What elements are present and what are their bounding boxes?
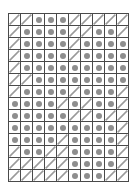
dot-cell[interactable] (69, 74, 81, 86)
dot-cell[interactable] (81, 158, 93, 169)
dot-cell[interactable] (33, 86, 45, 98)
dot-cell[interactable] (33, 14, 45, 26)
slash-cell[interactable] (69, 86, 81, 98)
dot-cell[interactable] (21, 146, 33, 158)
dot-cell[interactable] (57, 38, 69, 50)
slash-cell[interactable] (81, 110, 93, 122)
dot-cell[interactable] (33, 110, 45, 122)
dot-cell[interactable] (105, 134, 117, 146)
slash-cell[interactable] (9, 26, 21, 38)
dot-cell[interactable] (105, 26, 117, 38)
slash-cell[interactable] (117, 146, 125, 158)
dot-cell[interactable] (57, 110, 69, 122)
slash-cell[interactable] (21, 14, 33, 26)
dot-cell[interactable] (105, 158, 117, 169)
dot-cell[interactable] (81, 122, 93, 134)
dot-cell[interactable] (57, 122, 69, 134)
dot-cell[interactable] (93, 74, 105, 86)
dot-cell[interactable] (69, 122, 81, 134)
dot-cell[interactable] (21, 26, 33, 38)
dot-cell[interactable] (21, 134, 33, 146)
dot-cell[interactable] (33, 146, 45, 158)
dot-cell[interactable] (33, 62, 45, 74)
slash-cell[interactable] (9, 38, 21, 50)
dot-cell[interactable] (33, 98, 45, 110)
slash-cell[interactable] (117, 110, 125, 122)
dot-cell[interactable] (33, 26, 45, 38)
slash-cell[interactable] (9, 158, 21, 169)
slash-cell[interactable] (69, 50, 81, 62)
dot-cell[interactable] (45, 26, 57, 38)
slash-cell[interactable] (9, 62, 21, 74)
dot-cell[interactable] (69, 146, 81, 158)
dot-cell[interactable] (81, 134, 93, 146)
dot-cell[interactable] (45, 86, 57, 98)
dot-cell[interactable] (81, 86, 93, 98)
dot-cell[interactable] (21, 122, 33, 134)
dot-cell[interactable] (93, 110, 105, 122)
slash-cell[interactable] (57, 146, 69, 158)
dot-cell[interactable] (105, 74, 117, 86)
slash-cell[interactable] (33, 158, 45, 169)
dot-cell[interactable] (117, 38, 125, 50)
dot-cell[interactable] (45, 98, 57, 110)
slash-cell[interactable] (57, 98, 69, 110)
dot-cell[interactable] (21, 62, 33, 74)
slash-cell[interactable] (81, 26, 93, 38)
slash-cell[interactable] (21, 158, 33, 169)
dot-cell[interactable] (93, 38, 105, 50)
dot-cell[interactable] (33, 50, 45, 62)
dot-cell[interactable] (105, 50, 117, 62)
dot-cell[interactable] (69, 98, 81, 110)
dot-cell[interactable] (105, 146, 117, 158)
slash-cell[interactable] (69, 110, 81, 122)
dot-cell[interactable] (57, 26, 69, 38)
slash-cell[interactable] (69, 26, 81, 38)
dot-cell[interactable] (57, 62, 69, 74)
dot-cell[interactable] (45, 50, 57, 62)
dot-cell[interactable] (21, 98, 33, 110)
slash-cell[interactable] (21, 74, 33, 86)
dot-cell[interactable] (9, 98, 21, 110)
slash-cell[interactable] (117, 86, 125, 98)
dot-cell[interactable] (57, 14, 69, 26)
slash-cell[interactable] (9, 50, 21, 62)
dot-cell[interactable] (105, 86, 117, 98)
dot-cell[interactable] (117, 62, 125, 74)
dot-cell[interactable] (69, 62, 81, 74)
dot-cell[interactable] (117, 74, 125, 86)
dot-cell[interactable] (81, 74, 93, 86)
slash-cell[interactable] (9, 14, 21, 26)
slash-cell[interactable] (81, 14, 93, 26)
slash-cell[interactable] (9, 146, 21, 158)
slash-cell[interactable] (45, 146, 57, 158)
dot-cell[interactable] (45, 62, 57, 74)
dot-cell[interactable] (93, 86, 105, 98)
slash-cell[interactable] (69, 14, 81, 26)
dot-cell[interactable] (45, 74, 57, 86)
dot-cell[interactable] (93, 62, 105, 74)
dot-cell[interactable] (21, 50, 33, 62)
dot-cell[interactable] (93, 50, 105, 62)
dot-cell[interactable] (117, 50, 125, 62)
slash-cell[interactable] (117, 158, 125, 169)
dot-cell[interactable] (57, 74, 69, 86)
dot-cell[interactable] (69, 134, 81, 146)
dot-cell[interactable] (33, 134, 45, 146)
dot-cell[interactable] (105, 98, 117, 110)
dot-cell[interactable] (81, 50, 93, 62)
slash-cell[interactable] (117, 26, 125, 38)
dot-cell[interactable] (57, 50, 69, 62)
dot-cell[interactable] (81, 38, 93, 50)
dot-cell[interactable] (9, 134, 21, 146)
dot-cell[interactable] (21, 110, 33, 122)
slash-cell[interactable] (117, 98, 125, 110)
dot-cell[interactable] (9, 122, 21, 134)
dot-cell[interactable] (57, 86, 69, 98)
dot-cell[interactable] (93, 122, 105, 134)
dot-cell[interactable] (33, 74, 45, 86)
dot-cell[interactable] (81, 62, 93, 74)
slash-cell[interactable] (93, 14, 105, 26)
slash-cell[interactable] (117, 122, 125, 134)
dot-cell[interactable] (93, 26, 105, 38)
